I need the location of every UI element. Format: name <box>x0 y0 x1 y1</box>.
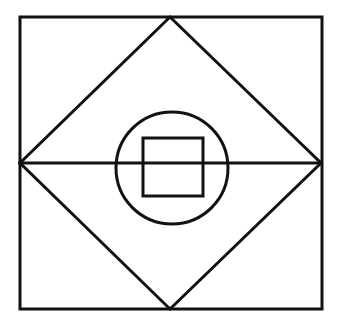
geometric-diagram <box>0 0 339 326</box>
central-circle <box>116 112 228 224</box>
inner-square <box>143 138 203 196</box>
